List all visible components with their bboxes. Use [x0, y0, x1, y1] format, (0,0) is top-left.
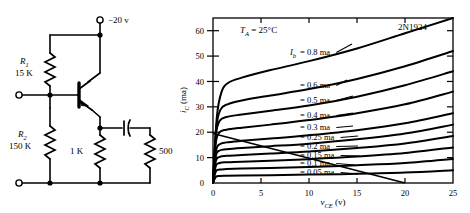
resistor-r2 — [45, 126, 55, 159]
input-terminal-circle[interactable] — [16, 92, 22, 98]
r1-value-label: 15 K — [15, 68, 33, 78]
ground-terminal-circle[interactable] — [16, 180, 22, 186]
figure-svg: −20 v R1 15 K R2 150 K 1 K 500 051015202… — [0, 0, 470, 213]
y-axis-tick-labels: 0102030405060 — [196, 26, 205, 188]
y-tick-label: 60 — [196, 26, 205, 36]
supply-terminal-circle[interactable] — [97, 17, 103, 23]
curve-label-ib-0p6: = 0.6 ma — [300, 80, 330, 90]
curve-label-ib-0p3: = 0.3 ma — [300, 122, 330, 132]
circuit-schematic — [16, 17, 155, 186]
x-tick-label: 10 — [305, 188, 314, 198]
curve-label-ib-0p5: = 0.5 ma — [300, 95, 330, 105]
curve-leader — [336, 146, 358, 147]
y-tick-label: 10 — [196, 153, 205, 163]
x-tick-label: 20 — [401, 188, 410, 198]
r1-ref-label: R1 — [19, 56, 29, 68]
resistor-500 — [145, 135, 155, 168]
curve-leader — [341, 156, 360, 157]
device-annotation: 2N1924 — [398, 22, 427, 32]
ground-node-dot-left — [47, 180, 52, 185]
ground-node-dot-mid — [97, 180, 102, 185]
r2-ref-label: R2 — [17, 129, 28, 141]
supply-label: −20 v — [108, 15, 129, 25]
emitter-lead-diagonal — [92, 110, 100, 117]
y-tick-label: 40 — [196, 77, 205, 87]
curve-label-ib-0p05: = 0.05 ma — [300, 167, 335, 177]
y-tick-label: 50 — [196, 51, 205, 61]
circuit-labels: −20 v R1 15 K R2 150 K 1 K 500 — [9, 15, 173, 156]
y-tick-label: 30 — [196, 102, 205, 112]
emitter-resistor-label: 1 K — [70, 146, 84, 156]
load-resistor-label: 500 — [159, 146, 173, 156]
figure-container: −20 v R1 15 K R2 150 K 1 K 500 051015202… — [0, 0, 470, 213]
r2-value-label: 150 K — [9, 141, 32, 151]
collector-characteristics-chart: 0510152025 0102030405060 = 0.8 ma= 0.6 m… — [178, 18, 457, 209]
resistor-1k — [95, 135, 105, 168]
curve-label-ib-0p8: = 0.8 ma — [300, 47, 330, 57]
y-axis-title: iC (ma) — [178, 87, 190, 113]
x-axis-title: vCE (v) — [320, 197, 345, 209]
y-tick-label: 0 — [200, 178, 204, 188]
x-tick-label: 15 — [353, 188, 362, 198]
curve-label-ib-0p4: = 0.4 ma — [300, 110, 330, 120]
emitter-arrow — [81, 100, 89, 106]
x-tick-label: 25 — [449, 188, 458, 198]
y-tick-label: 20 — [196, 127, 205, 137]
x-tick-label: 5 — [259, 188, 263, 198]
resistor-r1 — [45, 53, 55, 86]
transistor-pnp — [79, 81, 92, 110]
x-tick-label: 0 — [211, 188, 215, 198]
capacitor — [124, 120, 130, 136]
